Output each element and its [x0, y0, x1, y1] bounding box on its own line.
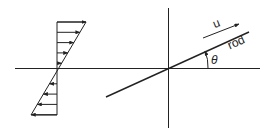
shear-profile [15, 22, 100, 115]
rod-diagram [100, 8, 260, 128]
rod-label: rod [225, 32, 247, 52]
angle-arc [205, 51, 208, 68]
diagram-canvas: u rod θ [0, 0, 276, 130]
theta-label: θ [211, 53, 218, 67]
velocity-label: u [211, 16, 222, 31]
diagram-svg: u rod θ [0, 0, 276, 130]
